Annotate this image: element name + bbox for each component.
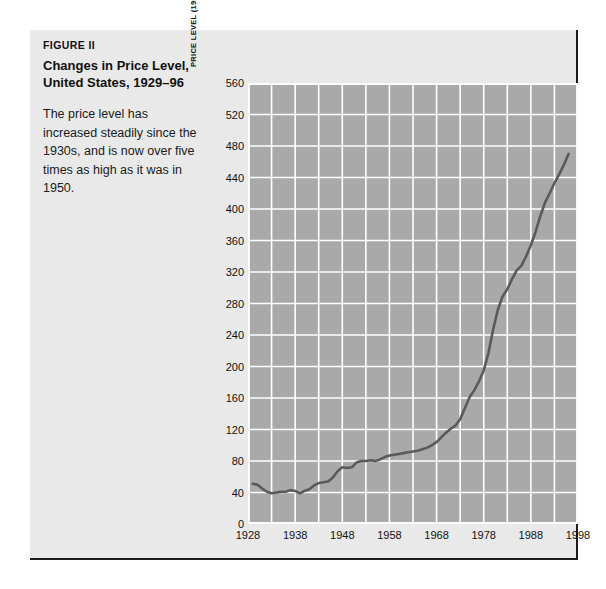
y-axis-title-container: PRICE LEVEL (1958 = 100) bbox=[190, 49, 202, 229]
y-tick-label: 240 bbox=[184, 330, 244, 341]
y-tick-label: 80 bbox=[184, 456, 244, 467]
plot-wrap: 0408012016020024028032036040044048052056… bbox=[248, 83, 578, 524]
x-tick-label: 1998 bbox=[548, 529, 606, 541]
y-axis-title: PRICE LEVEL (1958 = 100) bbox=[188, 0, 200, 67]
y-tick-label: 480 bbox=[184, 141, 244, 152]
y-tick-label: 120 bbox=[184, 425, 244, 436]
y-tick-label: 560 bbox=[184, 78, 244, 89]
figure-description: The price level has increased steadily s… bbox=[43, 105, 198, 198]
data-line-series-0 bbox=[253, 154, 569, 493]
y-tick-label: 440 bbox=[184, 173, 244, 184]
figure-caption-block: FIGURE II Changes in Price Level, United… bbox=[43, 39, 198, 198]
y-tick-label: 320 bbox=[184, 267, 244, 278]
y-tick-label: 400 bbox=[184, 204, 244, 215]
figure-root: FIGURE II Changes in Price Level, United… bbox=[0, 0, 606, 589]
figure-panel: FIGURE II Changes in Price Level, United… bbox=[30, 30, 578, 560]
figure-panel-inner: FIGURE II Changes in Price Level, United… bbox=[30, 30, 576, 558]
chart-area: PRICE LEVEL (1958 = 100) 040801201602002… bbox=[188, 39, 566, 551]
plot-area bbox=[248, 83, 578, 524]
y-tick-label: 360 bbox=[184, 236, 244, 247]
price-level-line-chart bbox=[248, 83, 578, 524]
y-tick-label: 40 bbox=[184, 488, 244, 499]
y-tick-label: 520 bbox=[184, 110, 244, 121]
y-tick-label: 160 bbox=[184, 393, 244, 404]
y-tick-label: 200 bbox=[184, 362, 244, 373]
y-tick-label: 280 bbox=[184, 299, 244, 310]
figure-title: Changes in Price Level, United States, 1… bbox=[43, 58, 198, 91]
figure-number: FIGURE II bbox=[43, 39, 198, 51]
gridlines bbox=[248, 83, 578, 524]
